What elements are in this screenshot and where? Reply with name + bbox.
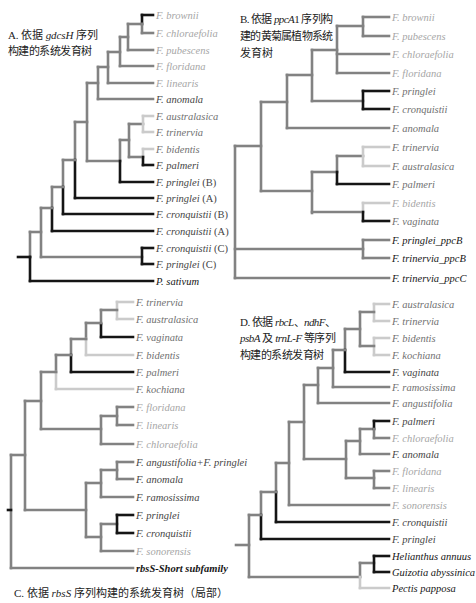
taxon-name: F. bidentis: [391, 333, 436, 344]
taxon-label: F. sonorensis: [391, 500, 447, 511]
taxon-name: F. cronquistii: [155, 243, 212, 254]
taxon-name: F. brownii: [391, 12, 435, 23]
taxon-label: F. australasica: [391, 299, 454, 310]
taxon-name: F. cronquistii: [391, 517, 448, 528]
taxon-name: F. angustifolia+F. pringlei: [135, 457, 247, 468]
taxon-copy-suffix: (A): [211, 226, 229, 238]
taxon-name: F. pringlei: [391, 534, 436, 545]
caption-d-line-3: 构建的系统发育树: [240, 348, 324, 361]
taxon-name: F. ramosissima: [391, 382, 455, 393]
caption-a-line-2: 构建的系统发育树: [8, 44, 92, 57]
taxon-label: F. palmeri: [155, 160, 199, 171]
taxon-name: F. linearis: [391, 483, 434, 494]
taxon-label: F. trinervia_ppcB: [391, 253, 466, 264]
taxon-name: F. bidentis: [135, 350, 180, 361]
taxon-label: F. vaginata: [391, 216, 439, 227]
taxon-label: Helianthus annuus: [391, 551, 471, 562]
taxon-label: F. australasica: [391, 161, 454, 172]
taxon-name: F. kochiana: [391, 350, 441, 361]
tree-panel-c: F. trinerviaF. australasicaF. vaginataF.…: [8, 297, 247, 574]
taxon-label: F. cronquistii: [135, 528, 192, 539]
taxon-label: F. cronquistii: [391, 104, 448, 115]
taxon-label: F. trinervia: [391, 142, 439, 153]
taxon-label: F. palmeri: [391, 179, 435, 190]
taxon-label: F. kochiana: [391, 350, 441, 361]
taxon-name: F. floridana: [391, 466, 441, 477]
taxon-name: F. floridana: [155, 61, 205, 72]
taxon-name: F. ramosissima: [135, 492, 199, 503]
taxon-label: rbsS-Short subfamily: [136, 563, 228, 574]
taxon-label: F. pringlei: [391, 534, 436, 545]
taxon-label: F. bidentis: [391, 198, 436, 209]
taxon-label: F. anomala: [391, 123, 439, 134]
taxon-name: F. angustifolia: [391, 398, 452, 409]
taxon-copy-suffix: (C): [211, 243, 228, 255]
taxon-label: F. cronquistii (C): [155, 243, 229, 255]
tree-layer: F. browniiF. chloraefoliaF. pubescensF. …: [8, 10, 475, 594]
taxon-label: Guizotia abyssinica: [392, 567, 475, 578]
taxon-label: F. chloraefolia: [155, 28, 218, 39]
taxon-label: F. cronquistii: [391, 517, 448, 528]
taxon-label: F. cronquistii (A): [155, 226, 229, 238]
taxon-name: F. bidentis: [391, 198, 436, 209]
phylogenetic-tree-figure: F. browniiF. chloraefoliaF. pubescensF. …: [0, 0, 476, 603]
taxon-name: F. sonorensis: [391, 500, 447, 511]
taxon-label: P. sativum: [155, 276, 199, 287]
taxon-name: F. palmeri: [155, 160, 199, 171]
taxon-name: F. bidentis: [155, 144, 200, 155]
taxon-name: F. pubescens: [155, 45, 209, 56]
taxon-name: F. kochiana: [135, 384, 185, 395]
taxon-label: F. linearis: [155, 78, 198, 89]
taxon-name: F. pubescens: [391, 31, 445, 42]
taxon-name: F. pringlei: [391, 86, 436, 97]
taxon-copy-suffix: (A): [200, 193, 218, 205]
taxon-name: F. trinervia_ppcC: [391, 273, 467, 284]
taxon-label: F. linearis: [135, 420, 178, 431]
tree-branches: [8, 302, 133, 568]
taxon-name: F. anomala: [155, 94, 203, 105]
taxon-label: F. pringlei: [135, 510, 180, 521]
taxon-name: F. chloraefolia: [391, 433, 454, 444]
taxon-label: F. bidentis: [155, 144, 200, 155]
taxon-name: F. australasica: [135, 314, 198, 325]
taxon-label: F. brownii: [391, 12, 435, 23]
tree-branches: [236, 304, 389, 588]
taxon-label: F. ramosissima: [135, 492, 199, 503]
taxon-label: F. pringlei: [391, 86, 436, 97]
taxon-label: F. pringlei_ppcB: [391, 235, 463, 246]
taxon-label: F. floridana: [391, 68, 441, 79]
caption-panel-d: D. 依据 rbcL、ndhF、 psbA 及 trnL-F 等序列 构建的系统…: [239, 315, 336, 361]
taxon-name: F. anomala: [135, 474, 183, 485]
taxon-label: F. trinervia_ppcC: [391, 273, 467, 284]
caption-panel-a: A. 依据 gdcsH 序列 构建的系统发育树: [8, 28, 98, 57]
taxon-label: F. australasica: [155, 111, 218, 122]
taxon-name: F. trinervia: [391, 142, 439, 153]
taxon-name: F. brownii: [155, 10, 199, 21]
taxon-name: F. chloraefolia: [155, 28, 218, 39]
taxon-name: F. palmeri: [135, 367, 179, 378]
caption-b-line-3: 发育树: [240, 46, 273, 59]
taxon-name: F. chloraefolia: [391, 49, 454, 60]
taxon-label: F. bidentis: [391, 333, 436, 344]
taxon-name: F. anomala: [391, 123, 439, 134]
taxon-name: F. vaginata: [391, 367, 439, 378]
taxon-label: F. palmeri: [391, 416, 435, 427]
taxon-name: F. cronquistii: [155, 209, 212, 220]
taxon-name: F. australasica: [155, 111, 218, 122]
taxon-name: Guizotia abyssinica: [392, 567, 475, 578]
taxon-label: F. vaginata: [391, 367, 439, 378]
taxon-label: F. chloraefolia: [135, 439, 198, 450]
taxon-label: F. chloraefolia: [391, 49, 454, 60]
taxon-name: F. cronquistii: [155, 226, 212, 237]
taxon-name: F. vaginata: [391, 216, 439, 227]
taxon-label: F. trinervia: [135, 297, 183, 308]
taxon-name: F. palmeri: [391, 179, 435, 190]
taxon-name: F. linearis: [155, 78, 198, 89]
taxon-name: F. floridana: [391, 68, 441, 79]
taxon-name: F. pringlei_ppcB: [391, 235, 463, 246]
taxon-label: F. angustifolia: [391, 398, 452, 409]
taxon-copy-suffix: (B): [211, 209, 228, 221]
taxon-label: F. anomala: [155, 94, 203, 105]
taxon-label: F. vaginata: [135, 332, 183, 343]
caption-b-line-2: 建的黄菊属植物系统: [240, 29, 333, 42]
